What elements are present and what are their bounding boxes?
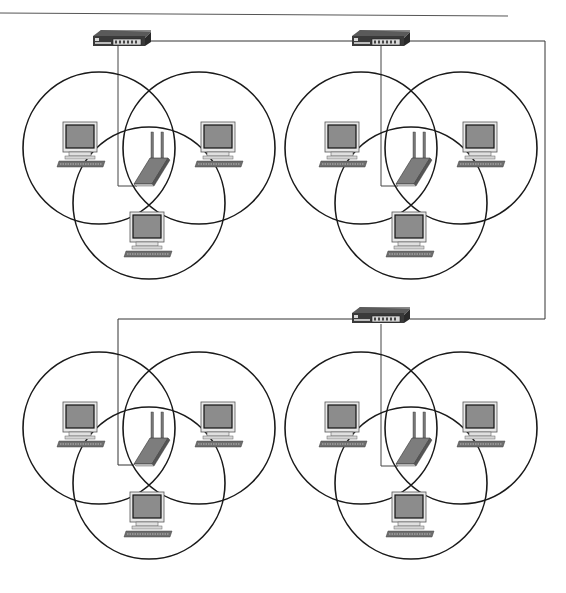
computer-icon[interactable] bbox=[57, 122, 105, 167]
computer-icon[interactable] bbox=[386, 492, 434, 537]
network-diagram bbox=[0, 0, 566, 593]
switch-icon[interactable] bbox=[352, 307, 410, 323]
access-point-icon[interactable] bbox=[134, 412, 170, 466]
computer-icon[interactable] bbox=[457, 402, 505, 447]
access-point-icon[interactable] bbox=[396, 412, 432, 466]
computer-icon[interactable] bbox=[195, 122, 243, 167]
computer-icon[interactable] bbox=[195, 402, 243, 447]
computer-icon[interactable] bbox=[124, 212, 172, 257]
access-point-icon[interactable] bbox=[396, 132, 432, 186]
computer-icon[interactable] bbox=[386, 212, 434, 257]
computer-icon[interactable] bbox=[57, 402, 105, 447]
cell-bottom-right bbox=[285, 352, 537, 559]
backbone-wiring bbox=[118, 41, 545, 465]
switch-icon[interactable] bbox=[93, 30, 151, 46]
cell-top-left bbox=[23, 72, 275, 279]
switch-icon[interactable] bbox=[352, 30, 410, 46]
computer-icon[interactable] bbox=[124, 492, 172, 537]
top-border-line bbox=[0, 13, 508, 16]
cell-bottom-left bbox=[23, 352, 275, 559]
computer-icon[interactable] bbox=[319, 122, 367, 167]
computer-icon[interactable] bbox=[457, 122, 505, 167]
computer-icon[interactable] bbox=[319, 402, 367, 447]
access-point-icon[interactable] bbox=[134, 132, 170, 186]
cell-top-right bbox=[285, 72, 537, 279]
